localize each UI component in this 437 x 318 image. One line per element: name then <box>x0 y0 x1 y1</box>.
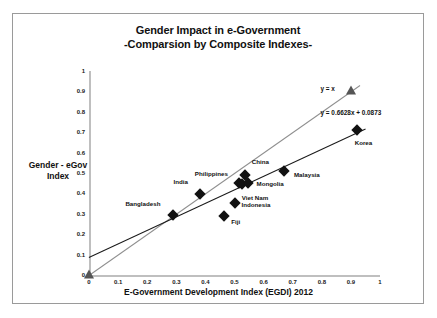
regression-line-equation-label: y = 0.6628x + 0.0873 <box>321 108 382 115</box>
x-tick-label: 0.3 <box>172 279 180 285</box>
plot-area: 00.10.20.30.40.50.60.70.80.91 00.10.20.3… <box>89 71 380 275</box>
label-philippines: Philippines <box>195 170 228 177</box>
chart-title-main: Gender Impact in e-Government <box>136 24 301 36</box>
regression-line <box>89 129 366 259</box>
y-tick-label: 0.9 <box>77 88 85 94</box>
y-tick-label: 0.8 <box>77 109 85 115</box>
chart-frame: Gender Impact in e-Government -Comparsio… <box>12 13 424 304</box>
x-axis-line <box>89 275 380 277</box>
label-china: China <box>252 158 269 165</box>
x-tick-label: 0.9 <box>347 279 355 285</box>
x-tick-label: 0.7 <box>289 279 297 285</box>
y-tick-label: 0.5 <box>77 170 85 176</box>
x-tick-label: 0.2 <box>143 279 151 285</box>
x-tick-label: 0.5 <box>230 279 238 285</box>
y-axis-line <box>89 71 91 275</box>
x-tick-label: 0.6 <box>259 279 267 285</box>
chart-subtitle: -Comparsion by Composite Indexes- <box>13 37 423 51</box>
data-point-india[interactable] <box>194 189 205 200</box>
identity-line <box>89 85 360 276</box>
y-tick-label: 0.2 <box>77 231 85 237</box>
y-tick-label: 0.1 <box>77 252 85 258</box>
x-tick-label: 0.4 <box>201 279 209 285</box>
chart-title: Gender Impact in e-Government -Comparsio… <box>13 23 423 51</box>
y-tick-label: 0.6 <box>77 150 85 156</box>
label-korea: Korea <box>355 139 373 146</box>
y-tick-label: 0.4 <box>77 190 85 196</box>
identity-line-equation-label: y = x <box>320 85 334 92</box>
label-malaysia: Malaysia <box>294 171 320 178</box>
y-tick-label: 0.7 <box>77 129 85 135</box>
x-tick-label: 0.8 <box>318 279 326 285</box>
identity-triangle[interactable] <box>346 86 356 95</box>
label-fiji: Fiji <box>231 218 240 225</box>
label-indonesia: Indonesia <box>242 201 271 208</box>
x-tick-label: 0.1 <box>114 279 122 285</box>
y-tick-label: 1 <box>82 68 85 74</box>
label-mongolia: Mongolia <box>257 180 284 187</box>
x-axis-title: E-Government Development Index (EGDI) 20… <box>0 287 437 297</box>
x-tick-label: 0 <box>87 279 90 285</box>
label-india: India <box>174 178 188 185</box>
x-tick-label: 1 <box>378 279 381 285</box>
data-point-fiji[interactable] <box>219 210 230 221</box>
label-viet-nam: Viet Nam <box>242 194 268 201</box>
origin-triangle[interactable] <box>84 270 94 279</box>
y-tick-label: 0.3 <box>77 211 85 217</box>
label-bangladesh: Bangladesh <box>125 200 160 207</box>
data-point-indonesia[interactable] <box>229 197 240 208</box>
